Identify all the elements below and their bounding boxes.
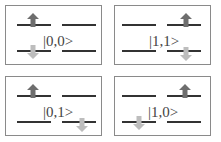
upper-level-left (122, 95, 156, 97)
spin-up-arrow-icon (27, 84, 39, 98)
state-label: |1,0> (148, 105, 178, 120)
state-panel-11: |1,1> (114, 5, 211, 65)
state-label: |0,1> (43, 105, 73, 120)
lower-level-left (122, 50, 156, 52)
spin-up-arrow-icon (179, 84, 191, 98)
spin-down-arrow-icon (133, 116, 145, 130)
state-panel-01: |0,1> (5, 76, 102, 136)
lower-level-left (17, 121, 51, 123)
state-panel-00: |0,0> (5, 5, 102, 65)
state-label: |1,1> (149, 34, 179, 49)
spin-up-arrow-icon (27, 13, 39, 27)
lower-level-right (62, 50, 96, 52)
state-panel-10: |1,0> (114, 76, 211, 136)
upper-level-left (122, 24, 156, 26)
spin-down-arrow-icon (76, 118, 88, 132)
spin-up-arrow-icon (180, 13, 192, 27)
upper-level-right (62, 95, 96, 97)
upper-level-right (62, 24, 96, 26)
spin-down-arrow-icon (180, 47, 192, 61)
lower-level-right (167, 121, 201, 123)
state-label: |0,0> (43, 34, 73, 49)
spin-down-arrow-icon (27, 45, 39, 59)
